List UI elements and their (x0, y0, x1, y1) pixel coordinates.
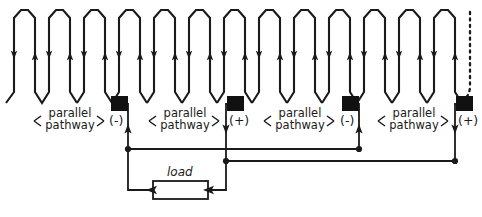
diagram-canvas: parallel pathway parallel pathway parall… (0, 0, 482, 217)
flow-arrows (11, 51, 458, 60)
pathway-label-3-line2: pathway (271, 120, 329, 132)
terminal-label-negative-1: (-) (109, 115, 123, 128)
terminal-label-positive-4: (+) (458, 115, 478, 128)
load-box (153, 181, 208, 199)
electrode-negative-1 (111, 96, 128, 111)
junction-dot-pos-4 (452, 158, 458, 164)
positive-load-leg (208, 161, 226, 190)
span-left-arrow-1 (34, 116, 41, 126)
span-left-arrow-3 (264, 116, 271, 126)
serpentine-channel (6, 10, 462, 103)
continuation-dashed-line (462, 12, 470, 101)
electrode-negative-3 (342, 96, 359, 111)
electrode-positive-4 (456, 96, 473, 111)
electrode-positive-2 (227, 96, 244, 111)
pathway-label-2: parallel pathway (156, 108, 214, 131)
span-left-arrow-4 (378, 116, 385, 126)
negative-load-leg (128, 149, 153, 190)
pathway-label-1-line2: pathway (41, 120, 99, 132)
junction-dot-neg-1 (125, 146, 131, 152)
pathway-label-1: parallel pathway (41, 108, 99, 131)
load-label: load (167, 166, 193, 178)
pathway-label-2-line2: pathway (156, 120, 214, 132)
pathway-label-4: parallel pathway (385, 108, 443, 131)
terminal-label-negative-3: (-) (340, 115, 354, 128)
junction-dot-pos-2 (223, 158, 229, 164)
junction-dot-neg-3 (356, 146, 362, 152)
terminal-label-positive-2: (+) (229, 115, 249, 128)
pathway-label-4-line2: pathway (385, 120, 443, 132)
pathway-label-3: parallel pathway (271, 108, 329, 131)
span-left-arrow-2 (149, 116, 156, 126)
